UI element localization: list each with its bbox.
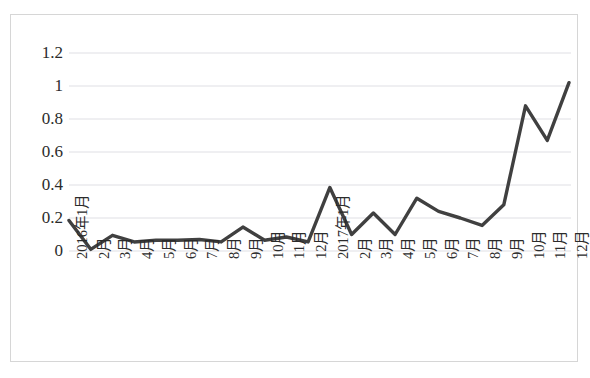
x-axis-tick-label: 3月 [118,238,133,259]
y-axis-tick-label: 0.4 [42,176,63,193]
x-axis-tick-label: 5月 [423,238,438,259]
x-axis-tick-label: 9月 [249,238,264,259]
y-axis-tick-label: 0 [55,242,64,259]
x-axis-tick-label: 8月 [488,238,503,259]
x-axis-tick-label: 10月 [532,231,547,260]
x-axis-tick-label: 11月 [553,231,568,259]
x-axis-tick-label: 4月 [140,238,155,259]
x-axis-tick-label: 6月 [445,238,460,259]
chart-plot-frame: 1.210.80.60.40.20 2016年1月2月3月4月5月6月7月8月9… [10,14,578,362]
y-axis-tick-label: 1 [55,77,64,94]
gridline-group [69,53,571,251]
x-axis-tick-label: 7月 [205,238,220,259]
x-axis-tick-label: 2月 [97,238,112,259]
x-axis-tick-label: 10月 [271,231,286,260]
x-axis-tick-label: 3月 [379,238,394,259]
x-axis-tick-label: 12月 [575,231,590,260]
x-axis-tick-label: 4月 [401,238,416,259]
line-chart-svg [11,15,577,361]
x-axis-tick-label: 6月 [184,238,199,259]
x-axis-tick-label: 5月 [162,238,177,259]
x-axis-tick-label: 2016年1月 [75,195,90,259]
y-axis-tick-label: 1.2 [42,44,63,61]
x-axis-tick-label: 8月 [227,238,242,259]
x-axis-tick-label: 7月 [466,238,481,259]
x-axis-tick-label: 9月 [510,238,525,259]
y-axis-tick-label: 0.8 [42,110,63,127]
x-axis-tick-label: 2月 [358,238,373,259]
x-axis-tick-label: 12月 [314,231,329,260]
x-axis-tick-label: 11月 [292,231,307,259]
x-axis-tick-label: 2017年1月 [336,195,351,259]
y-axis-tick-label: 0.2 [42,209,63,226]
data-series-line [69,83,569,250]
y-axis-tick-label: 0.6 [42,143,63,160]
